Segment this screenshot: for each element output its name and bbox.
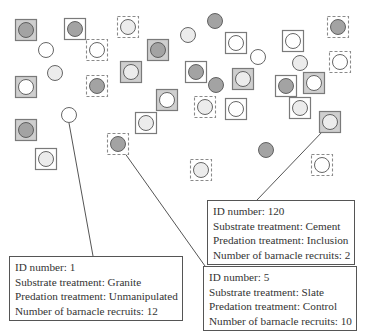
white-circle-icon [90,43,105,58]
experimental-unit [16,120,37,141]
callout-id-1: ID number: 1 Substrate treatment: Granit… [9,256,183,321]
callout-substrate-line: Substrate treatment: Cement [213,219,350,234]
light-circle-icon [39,152,54,167]
experimental-unit [157,90,178,111]
light-circle-icon [124,65,139,80]
white-circle-icon [229,102,244,117]
light-circle-icon [236,72,251,87]
dark-circle-icon [90,79,105,94]
callout-predation-line: Predation treatment: Unmanipulated [15,289,178,304]
callout-id-line: ID number: 5 [209,270,352,285]
dark-circle-icon [151,43,166,58]
dark-circle-icon [259,143,274,158]
experimental-unit [226,33,247,54]
experimental-unit [208,14,223,29]
experimental-unit [186,62,207,83]
callout-recruits-line: Number of barnacle recruits: 12 [15,304,178,319]
callout-recruits-line: Number of barnacle recruits: 2 [213,248,350,263]
experimental-unit [36,149,57,170]
experimental-unit [312,155,333,176]
experimental-unit [209,78,224,93]
experimental-unit [65,19,86,40]
light-circle-icon [198,100,213,115]
experimental-unit [148,40,169,61]
experimental-unit [39,43,54,58]
experimental-unit [62,108,77,123]
dark-circle-icon [19,23,34,38]
light-circle-icon [293,56,308,71]
leader-line [69,123,93,256]
callout-substrate-line: Substrate treatment: Granite [15,275,178,290]
experimental-unit [293,56,308,71]
white-circle-icon [62,108,77,123]
experimental-unit [276,76,297,97]
experimental-unit [108,134,129,155]
callout-predation-line: Predation treatment: Inclusion [213,233,350,248]
callout-id-line: ID number: 1 [15,260,178,275]
callout-id-120: ID number: 120 Substrate treatment: Ceme… [207,200,355,265]
experimental-unit [226,99,247,120]
white-circle-icon [19,80,34,95]
light-circle-icon [323,115,338,130]
experimental-unit [191,160,212,181]
experimental-unit [283,31,304,52]
light-circle-icon [293,101,308,116]
dark-circle-icon [111,137,126,152]
white-circle-icon [307,76,322,91]
callout-predation-line: Predation treatment: Control [209,299,352,314]
experimental-unit [181,28,196,43]
experimental-unit [195,97,216,118]
callout-id-line: ID number: 120 [213,204,350,219]
experimental-unit [330,52,351,73]
callout-substrate-line: Substrate treatment: Slate [209,285,352,300]
dark-circle-icon [208,14,223,29]
white-circle-icon [39,43,54,58]
experimental-unit [121,62,142,83]
experimental-unit [259,143,274,158]
dark-circle-icon [279,79,294,94]
white-circle-icon [160,93,175,108]
experimental-unit [48,66,63,81]
callout-recruits-line: Number of barnacle recruits: 10 [209,314,352,329]
experimental-unit [304,73,325,94]
white-circle-icon [333,55,348,70]
light-circle-icon [181,28,196,43]
experimental-unit [87,40,108,61]
light-circle-icon [194,163,209,178]
experimental-unit [87,76,108,97]
light-circle-icon [121,20,136,35]
experimental-unit [320,112,341,133]
dark-circle-icon [209,78,224,93]
experimental-unit [16,20,37,41]
light-circle-icon [139,116,154,131]
white-circle-icon [286,34,301,49]
callout-id-5: ID number: 5 Substrate treatment: Slate … [203,266,357,331]
light-circle-icon [48,66,63,81]
dark-circle-icon [331,20,346,35]
experimental-unit [16,77,37,98]
dark-circle-icon [19,123,34,138]
experimental-unit [251,50,266,65]
experimental-unit [136,113,157,134]
white-circle-icon [315,158,330,173]
white-circle-icon [251,50,266,65]
dark-circle-icon [68,22,83,37]
experimental-unit [290,98,311,119]
white-circle-icon [229,36,244,51]
experimental-unit [328,17,349,38]
experimental-unit [118,17,139,38]
dark-circle-icon [189,65,204,80]
experimental-unit [233,69,254,90]
